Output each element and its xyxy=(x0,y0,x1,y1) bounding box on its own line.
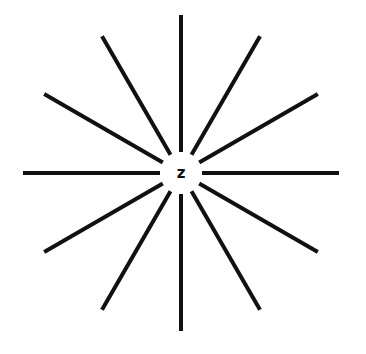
ray-line xyxy=(44,94,163,163)
starburst-diagram: z xyxy=(0,0,366,354)
ray-line xyxy=(199,184,318,253)
ray-line xyxy=(192,36,261,155)
ray-line xyxy=(102,36,171,155)
ray-line xyxy=(44,184,163,253)
ray-line xyxy=(102,191,171,310)
ray-line xyxy=(192,191,261,310)
center-label: z xyxy=(177,164,186,182)
ray-line xyxy=(199,94,318,163)
